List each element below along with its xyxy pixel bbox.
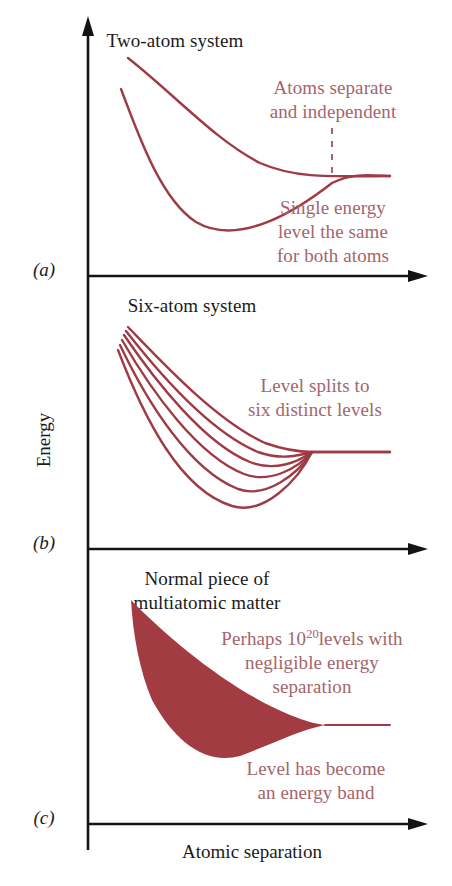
panel-c-title-line-1: Normal piece of [145, 568, 271, 589]
annotation-atoms-separate: Atoms separate and independent [270, 77, 397, 122]
annotation-single-energy-level: Single energy level the same for both at… [277, 197, 389, 266]
figure-svg: Two-atom system Atoms separate and indep… [0, 0, 452, 886]
x-axis-arrowhead [408, 270, 428, 282]
panel-c: Normal piece of multiatomic matter Perha… [33, 568, 428, 862]
annotation-line: negligible energy [245, 652, 379, 673]
annotation-line: an energy band [257, 782, 375, 803]
panel-b-title: Six-atom system [128, 295, 257, 316]
panel-a-title: Two-atom system [107, 30, 244, 51]
annotation-text-part: Perhaps 10 [221, 628, 306, 649]
annotation-line-with-exponent: Perhaps 1020levels with [221, 627, 403, 649]
panel-c-x-axis [88, 818, 428, 830]
y-axis-title: Energy [33, 412, 54, 467]
annotation-text-part: levels with [319, 628, 403, 649]
annotation-many-levels: Perhaps 1020levels with negligible energ… [221, 627, 403, 697]
annotation-exponent: 20 [306, 627, 319, 641]
annotation-energy-band: Level has become an energy band [247, 758, 386, 803]
y-axis [82, 16, 94, 850]
annotation-line: Atoms separate [273, 77, 392, 98]
annotation-line: level the same [278, 221, 388, 242]
x-axis-title: Atomic separation [182, 841, 322, 862]
panel-a: Two-atom system Atoms separate and indep… [33, 30, 428, 282]
curve-level-6 [118, 350, 312, 508]
panel-b: Six-atom system Level splits to six dist… [33, 295, 428, 555]
x-axis-arrowhead [408, 818, 428, 830]
panel-c-title-line-2: multiatomic matter [134, 592, 281, 613]
annotation-line: and independent [270, 101, 397, 122]
annotation-line: Single energy [280, 197, 386, 218]
annotation-line: Level splits to [260, 375, 369, 396]
energy-band-figure: Two-atom system Atoms separate and indep… [0, 0, 452, 886]
x-axis-arrowhead [408, 543, 428, 555]
panel-label-b: (b) [33, 532, 55, 554]
y-axis-arrowhead [82, 16, 94, 36]
annotation-line: separation [272, 676, 351, 697]
panel-label-c: (c) [33, 807, 54, 829]
annotation-line: for both atoms [277, 245, 389, 266]
panel-a-x-axis [88, 270, 428, 282]
annotation-line: six distinct levels [248, 399, 382, 420]
annotation-line: Level has become [247, 758, 386, 779]
annotation-level-splits: Level splits to six distinct levels [248, 375, 382, 420]
panel-label-a: (a) [33, 259, 55, 281]
panel-b-x-axis [88, 543, 428, 555]
